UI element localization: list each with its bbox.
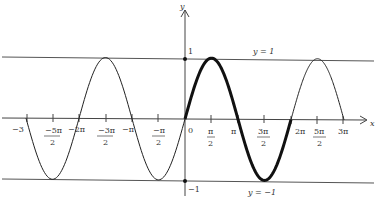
- x-tick-label: 0: [188, 126, 193, 135]
- x-tick-label: 2π: [295, 127, 305, 136]
- x-tick-label: −3: [12, 125, 24, 134]
- x-tick-label: −2π: [68, 125, 85, 134]
- sine-graph: y x 1 −1 y = 1 y = −1 −3 −5π 2 −2π −3π 2…: [0, 0, 378, 202]
- x-tick-label: π: [231, 127, 236, 136]
- y-minus-one-dot: [183, 179, 187, 183]
- x-tick-label: −3π: [98, 126, 115, 135]
- x-tick-label: −5π: [45, 126, 62, 135]
- x-tick-label-denominator: 2: [103, 138, 108, 147]
- x-tick-label-denominator: 2: [261, 139, 266, 148]
- x-tick-label: 5π: [314, 127, 324, 136]
- x-tick-label: 3π: [258, 127, 268, 136]
- y-tick-minus-one: −1: [188, 185, 200, 194]
- y-tick-one: 1: [188, 47, 193, 56]
- x-tick-label-denominator: 2: [208, 139, 213, 148]
- x-tick-label-denominator: 2: [156, 138, 161, 147]
- x-tick-label: −π: [153, 126, 165, 135]
- x-tick-label: −π: [122, 125, 134, 134]
- lower-bound-label: y = −1: [247, 188, 276, 197]
- upper-bound-label: y = 1: [252, 47, 274, 56]
- y-one-dot: [183, 57, 187, 61]
- x-tick-label: π: [208, 127, 213, 136]
- x-tick-label: 3π: [338, 127, 348, 136]
- sine-curve-right: [291, 59, 344, 120]
- x-tick-label-denominator: 2: [50, 138, 55, 147]
- x-tick-label-denominator: 2: [317, 139, 322, 148]
- lower-bound-line: [2, 179, 374, 183]
- x-axis-label: x: [370, 119, 375, 128]
- y-axis-label: y: [179, 2, 185, 11]
